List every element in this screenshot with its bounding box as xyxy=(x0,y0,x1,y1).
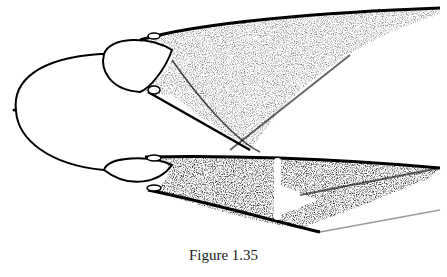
period-2-branch xyxy=(16,54,104,111)
figure-caption: Figure 1.35 xyxy=(0,247,447,264)
bifurcation-diagram xyxy=(0,0,447,245)
period-2-branch xyxy=(16,111,104,170)
